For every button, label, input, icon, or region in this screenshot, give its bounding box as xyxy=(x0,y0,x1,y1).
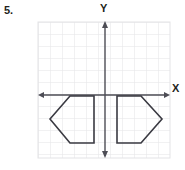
grid-lines xyxy=(38,22,170,158)
y-axis-label: Y xyxy=(100,2,107,14)
x-axis-label: X xyxy=(172,82,179,94)
coordinate-grid-figure xyxy=(0,0,185,170)
